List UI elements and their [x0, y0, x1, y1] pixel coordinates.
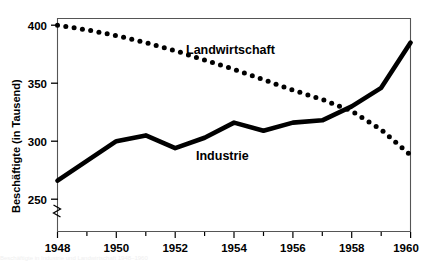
x-tick-label-1952: 1952 [162, 242, 188, 254]
x-tick-label-1960: 1960 [393, 242, 419, 254]
x-tick-label-1948: 1948 [45, 242, 71, 254]
x-tick-label-1956: 1956 [280, 242, 306, 254]
chart-figure: 400 350 300 250 Beschäftigte (in Tausend… [0, 0, 431, 262]
series-label-industrie: Industrie [196, 149, 249, 163]
y-tick-label-400: 400 [28, 20, 47, 32]
figure-caption: Beschäftigte in Industrie und Landwirtsc… [0, 255, 431, 262]
x-tick-label-1958: 1958 [339, 242, 365, 254]
series-label-landwirtschaft: Landwirtschaft [186, 43, 276, 57]
x-tick-label-1954: 1954 [221, 242, 247, 254]
y-axis-title: Beschäftigte (in Tausend) [10, 79, 22, 213]
y-tick-label-300: 300 [28, 136, 47, 148]
employment-line-chart: 400 350 300 250 Beschäftigte (in Tausend… [0, 0, 431, 262]
y-tick-label-250: 250 [28, 194, 47, 206]
x-tick-label-1950: 1950 [104, 242, 130, 254]
y-tick-label-350: 350 [28, 78, 47, 90]
